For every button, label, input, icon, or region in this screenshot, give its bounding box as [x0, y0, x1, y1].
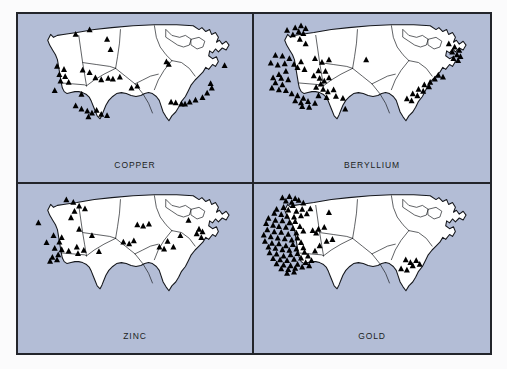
deposit-marker [270, 74, 276, 80]
deposit-marker [298, 23, 304, 29]
deposit-marker [281, 252, 287, 258]
deposit-marker [261, 231, 267, 237]
deposit-marker [262, 238, 268, 244]
deposit-marker [281, 204, 287, 210]
panel-label-gold: GOLD [254, 331, 490, 341]
us-map-copper [18, 16, 252, 144]
deposit-marker [44, 239, 50, 245]
map-panel-gold[interactable]: GOLD [254, 184, 490, 354]
deposit-marker [272, 216, 278, 222]
figure-frame: COPPER [16, 12, 492, 355]
deposit-marker [276, 240, 282, 246]
deposit-marker [278, 229, 284, 235]
deposit-marker [286, 55, 292, 61]
deposit-marker [278, 211, 284, 217]
deposit-marker [271, 228, 277, 234]
panel-grid: COPPER [18, 14, 490, 353]
deposit-marker [305, 98, 311, 104]
map-panel-copper[interactable]: COPPER [18, 14, 254, 184]
deposit-marker [312, 100, 318, 106]
deposit-marker [265, 214, 271, 220]
deposit-marker [73, 103, 79, 109]
deposit-marker [268, 60, 274, 66]
map-panel-beryllium[interactable]: BERYLLIUM [254, 14, 490, 184]
us-outline-beryllium [285, 25, 466, 121]
us-map-gold [254, 186, 490, 314]
deposit-marker [87, 26, 93, 32]
deposit-marker [300, 95, 306, 101]
deposit-marker [285, 230, 291, 236]
deposit-marker [269, 85, 275, 91]
deposit-marker [208, 80, 214, 86]
deposit-marker [193, 97, 199, 103]
deposit-marker [289, 236, 295, 242]
deposit-marker [78, 106, 84, 112]
us-map-zinc [18, 186, 252, 314]
mineral-deposit-figure: COPPER [0, 0, 507, 369]
deposit-marker [295, 92, 301, 98]
deposit-marker [268, 233, 274, 239]
deposit-marker [283, 87, 289, 93]
deposit-marker [272, 80, 278, 86]
deposit-marker [440, 74, 446, 80]
deposit-marker [292, 97, 298, 103]
deposit-marker [284, 27, 290, 33]
deposit-marker [274, 250, 280, 256]
deposit-marker [283, 68, 289, 74]
deposit-marker [289, 90, 295, 96]
deposit-marker [276, 87, 282, 93]
deposit-marker [275, 62, 281, 68]
deposit-marker [342, 106, 348, 112]
deposit-marker [104, 112, 110, 118]
deposit-marker [269, 239, 275, 245]
deposit-marker [52, 245, 58, 251]
deposit-marker [51, 232, 57, 238]
deposit-marker [70, 198, 76, 204]
deposit-marker [267, 249, 273, 255]
deposit-marker [279, 81, 285, 87]
deposit-marker [285, 76, 291, 82]
panel-label-copper: COPPER [18, 160, 252, 170]
deposit-marker [279, 194, 285, 200]
deposit-marker [264, 226, 270, 232]
deposit-marker [84, 108, 90, 114]
panel-label-zinc: ZINC [18, 331, 252, 341]
deposit-marker [35, 219, 41, 225]
deposit-marker [263, 220, 269, 226]
us-map-beryllium [254, 16, 490, 144]
deposit-marker [276, 223, 282, 229]
deposit-marker [270, 222, 276, 228]
map-panel-zinc[interactable]: ZINC [18, 184, 254, 354]
deposit-marker [63, 196, 69, 202]
deposit-marker [52, 87, 58, 93]
deposit-marker [306, 104, 312, 110]
deposit-marker [275, 234, 281, 240]
deposit-marker [286, 193, 292, 199]
deposit-marker [187, 99, 193, 105]
deposit-marker [222, 62, 228, 68]
panel-label-beryllium: BERYLLIUM [254, 160, 490, 170]
deposit-marker [55, 251, 61, 257]
deposit-marker [272, 52, 278, 58]
deposit-marker [204, 90, 210, 96]
deposit-marker [283, 242, 289, 248]
deposit-marker [292, 25, 298, 31]
deposit-marker [282, 60, 288, 66]
deposit-marker [279, 53, 285, 59]
deposit-marker [290, 32, 296, 38]
